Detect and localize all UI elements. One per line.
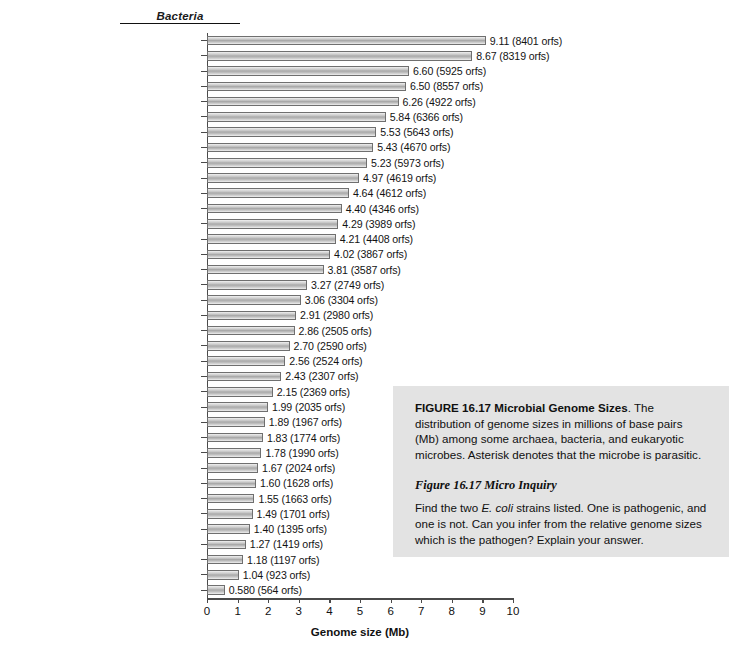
- x-axis-tick: [421, 598, 422, 603]
- x-axis-tick: [452, 598, 453, 603]
- bar: [207, 448, 261, 458]
- x-axis-tick-label: 9: [467, 605, 497, 617]
- x-axis-tick: [207, 598, 208, 603]
- x-axis-tick: [513, 598, 514, 603]
- bar-value-label: 2.15 (2369 orfs): [277, 386, 350, 398]
- bar-value-label: 1.60 (1628 orfs): [260, 477, 333, 489]
- bar: [207, 219, 338, 229]
- bar-row: Streptomyces coelicolor8.67 (8319 orfs): [0, 48, 540, 63]
- bar-value-label: 8.67 (8319 orfs): [476, 50, 549, 62]
- bar: [207, 540, 246, 550]
- bar-value-label: 5.23 (5973 orfs): [371, 157, 444, 169]
- group-heading-bacteria: Bacteria: [120, 10, 240, 24]
- bar: [207, 158, 367, 168]
- bar-value-label: 4.29 (3989 orfs): [342, 218, 415, 230]
- inquiry-species-name: E. coli: [481, 501, 513, 514]
- bar-value-label: 1.99 (2035 orfs): [272, 401, 345, 413]
- bar: [207, 250, 330, 260]
- bar-value-label: 1.27 (1419 orfs): [250, 538, 323, 550]
- bar: [207, 311, 296, 321]
- bar-row: Magnetospirillum magneticum4.97 (4619 or…: [0, 170, 540, 185]
- bar: [207, 143, 373, 153]
- bar-value-label: 5.53 (5643 orfs): [380, 126, 453, 138]
- bar-value-label: 4.97 (4619 orfs): [363, 172, 436, 184]
- genome-size-bar-chart: Bacteria Bradyrhizobium japonicum9.11 (8…: [0, 0, 540, 668]
- bar-value-label: 1.18 (1197 orfs): [247, 554, 319, 566]
- micro-inquiry-text: Find the two E. coli strains listed. One…: [415, 500, 709, 547]
- bar-row: Bacillus anthracis5.23 (5973 orfs): [0, 155, 540, 170]
- bar-value-label: 2.70 (2590 orfs): [294, 340, 367, 352]
- x-axis-tick: [482, 598, 483, 603]
- x-axis-tick-label: 5: [345, 605, 375, 617]
- bar-value-label: 5.84 (6366 orfs): [390, 111, 463, 123]
- x-axis-tick: [299, 598, 300, 603]
- figure-caption-text: FIGURE 16.17 Microbial Genome Sizes. The…: [415, 400, 709, 462]
- x-axis-title: Genome size (Mb): [207, 626, 513, 638]
- bar: [207, 585, 225, 595]
- bar-row: Synechococcus elongatus2.70 (2590 orfs): [0, 338, 540, 353]
- inquiry-text-before: Find the two: [415, 501, 481, 514]
- x-axis-tick: [329, 598, 330, 603]
- bar-row: Mycobacterium tuberculosis4.40 (4346 orf…: [0, 201, 540, 216]
- bar: [207, 479, 256, 489]
- bar-value-label: 2.91 (2980 orfs): [300, 309, 373, 321]
- bar: [207, 555, 243, 565]
- bar: [207, 509, 253, 519]
- bar-row: *Chlamydia trachomatis1.04 (923 orfs): [0, 567, 540, 582]
- bar: [207, 265, 324, 275]
- micro-inquiry-heading: Figure 16.17 Micro Inquiry: [415, 478, 709, 493]
- bar-value-label: 9.11 (8401 orfs): [490, 35, 562, 47]
- figure-title: Microbial Genome Sizes: [494, 401, 627, 414]
- bar-row: Microcystis aeruginosa5.84 (6366 orfs): [0, 109, 540, 124]
- x-axis-tick: [268, 598, 269, 603]
- bar: [207, 402, 268, 412]
- bar-row: Flavobacterium psychrophilum2.86 (2505 o…: [0, 323, 540, 338]
- bar-value-label: 5.43 (4670 orfs): [377, 141, 450, 153]
- bar: [207, 524, 250, 534]
- bar: [207, 326, 295, 336]
- bar-value-label: 1.55 (1663 orfs): [258, 493, 331, 505]
- bar-value-label: 1.04 (923 orfs): [243, 569, 310, 581]
- bar: [207, 112, 386, 122]
- bar-value-label: 1.40 (1395 orfs): [254, 523, 327, 535]
- bar: [207, 36, 486, 46]
- bar-row: Clostridium difficile4.29 (3989 orfs): [0, 216, 540, 231]
- bar-row: Geobacter sulfurreducens3.81 (3587 orfs): [0, 262, 540, 277]
- bar: [207, 387, 273, 397]
- bar-value-label: 0.580 (564 orfs): [229, 584, 302, 596]
- bar: [207, 188, 349, 198]
- bar-value-label: 1.89 (1967 orfs): [269, 416, 342, 428]
- bar: [207, 295, 301, 305]
- bar-value-label: 2.43 (2307 orfs): [285, 370, 358, 382]
- bar-row: Escherichia coli 0157:H75.53 (5643 orfs): [0, 125, 540, 140]
- bar-value-label: 2.86 (2505 orfs): [299, 325, 372, 337]
- bar-row: Bacillus subtilis4.21 (4408 orfs): [0, 231, 540, 246]
- bar: [207, 173, 359, 183]
- figure-number: FIGURE 16.17: [415, 401, 491, 414]
- bar: [207, 82, 406, 92]
- x-axis-tick-label: 4: [314, 605, 344, 617]
- bar-row: Caulobacter crescentus4.02 (3867 orfs): [0, 247, 540, 262]
- bar-value-label: 2.56 (2524 orfs): [289, 355, 362, 367]
- bar-value-label: 4.21 (4408 orfs): [340, 233, 413, 245]
- x-axis-tick-label: 0: [192, 605, 222, 617]
- bar: [207, 280, 307, 290]
- bar-value-label: 1.49 (1701 orfs): [257, 508, 330, 520]
- bar: [207, 97, 399, 107]
- bar: [207, 204, 342, 214]
- x-axis: 012345678910: [207, 598, 513, 599]
- bar-row: Thiomicrospira crunogena2.43 (2307 orfs): [0, 369, 540, 384]
- x-axis-tick: [360, 598, 361, 603]
- bar-value-label: 4.02 (3867 orfs): [334, 248, 407, 260]
- x-axis-tick-label: 10: [498, 605, 528, 617]
- bar-value-label: 6.50 (8557 orfs): [410, 80, 483, 92]
- bar-row: Acaryochloris marina6.50 (8557 orfs): [0, 79, 540, 94]
- bar-row: Pseudomonas aeruginosa6.60 (5925 orfs): [0, 64, 540, 79]
- bar-value-label: 3.27 (2749 orfs): [311, 279, 384, 291]
- bar-value-label: 1.67 (2024 orfs): [262, 462, 335, 474]
- bar-row: Mycobacterium leprae3.27 (2749 orfs): [0, 277, 540, 292]
- x-axis-tick-label: 6: [376, 605, 406, 617]
- figure-caption-panel: FIGURE 16.17 Microbial Genome Sizes. The…: [393, 386, 729, 557]
- bar-value-label: 4.40 (4346 orfs): [346, 203, 419, 215]
- bar: [207, 51, 472, 61]
